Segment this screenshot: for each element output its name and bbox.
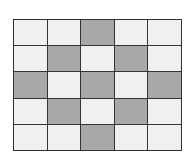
shaded-cell-r0-c2	[81, 20, 114, 45]
blank-cell-r3-c0	[14, 99, 47, 124]
blank-cell-r0-c1	[48, 20, 81, 45]
shaded-cell-r3-c1	[48, 99, 81, 124]
blank-cell-r0-c4	[148, 20, 181, 45]
blank-cell-r4-c4	[148, 125, 181, 150]
blank-cell-r0-c3	[115, 20, 148, 45]
blank-cell-r2-c1	[48, 72, 81, 97]
shaded-cell-r4-c2	[81, 125, 114, 150]
blank-cell-r4-c3	[115, 125, 148, 150]
blank-cell-r4-c0	[14, 125, 47, 150]
blank-cell-r1-c0	[14, 46, 47, 71]
blank-cell-r1-c4	[148, 46, 181, 71]
shaded-cell-r2-c4	[148, 72, 181, 97]
shaded-grid-diagram	[13, 19, 182, 151]
shaded-cell-r1-c1	[48, 46, 81, 71]
shaded-cell-r1-c3	[115, 46, 148, 71]
blank-cell-r3-c2	[81, 99, 114, 124]
shaded-cell-r2-c0	[14, 72, 47, 97]
blank-cell-r1-c2	[81, 46, 114, 71]
blank-cell-r0-c0	[14, 20, 47, 45]
shaded-cell-r2-c2	[81, 72, 114, 97]
shaded-cell-r3-c3	[115, 99, 148, 124]
blank-cell-r3-c4	[148, 99, 181, 124]
blank-cell-r4-c1	[48, 125, 81, 150]
blank-cell-r2-c3	[115, 72, 148, 97]
